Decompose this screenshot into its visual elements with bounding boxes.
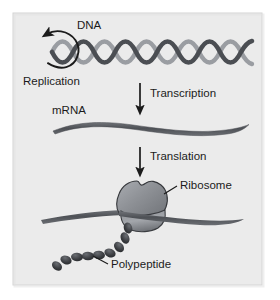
polypeptide-label: Polypeptide	[111, 258, 171, 270]
ribosome-label: Ribosome	[180, 179, 232, 191]
replication-label: Replication	[23, 75, 80, 87]
central-dogma-figure: DNA Replication Transcription mRNA Trans…	[0, 0, 280, 300]
transcription-label: Transcription	[150, 87, 216, 99]
translation-label: Translation	[150, 150, 206, 162]
diagram-canvas: DNA Replication Transcription mRNA Trans…	[0, 0, 280, 300]
mrna-label: mRNA	[52, 104, 86, 116]
dna-label: DNA	[77, 19, 102, 31]
